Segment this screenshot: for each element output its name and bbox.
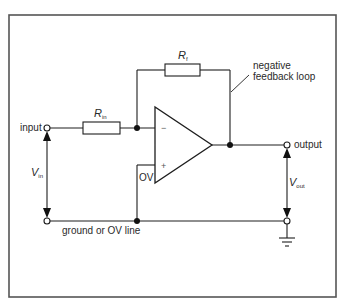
feedback-note: negative feedback loop — [253, 60, 316, 82]
earth-ground-icon — [279, 224, 295, 246]
non-inverting-input-sign: + — [161, 161, 166, 171]
opamp-circuit-diagram: Rin Rf negative feedback loop − + OV inp… — [0, 0, 340, 302]
feedback-loop-wire — [137, 70, 230, 145]
output-ground-terminal — [284, 218, 290, 224]
v-in-arrow — [43, 131, 51, 218]
ground-junction-node — [134, 218, 140, 224]
input-terminal — [44, 125, 50, 131]
output-terminal — [284, 142, 290, 148]
feedback-callout-pointer — [231, 75, 249, 92]
output-junction-node — [227, 142, 233, 148]
inverting-input-sign: − — [161, 123, 166, 133]
resistor-r-in — [83, 122, 120, 134]
r-in-label: Rin — [94, 107, 107, 120]
zero-volt-label: OV — [139, 172, 154, 183]
r-f-label: Rf — [178, 49, 188, 62]
opamp-triangle — [155, 107, 212, 183]
resistor-r-f — [165, 64, 200, 76]
v-out-label: Vout — [289, 176, 305, 189]
output-label: output — [294, 139, 322, 150]
v-in-label: Vin — [31, 166, 43, 179]
ground-line-label: ground or OV line — [62, 225, 141, 236]
input-ground-terminal — [44, 218, 50, 224]
input-label: input — [20, 122, 42, 133]
inverting-junction-node — [134, 125, 140, 131]
